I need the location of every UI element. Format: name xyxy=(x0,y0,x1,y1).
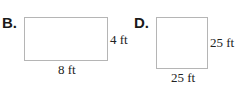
rectangle-b-height-label: 4 ft xyxy=(110,32,128,48)
figure-d-label: D. xyxy=(134,14,149,31)
square-d xyxy=(156,17,208,69)
rectangle-b-width-label: 8 ft xyxy=(58,62,76,78)
square-d-width-label: 25 ft xyxy=(171,70,195,86)
square-d-height-label: 25 ft xyxy=(210,35,234,51)
rectangle-b xyxy=(24,17,108,61)
figure-b-label: B. xyxy=(2,14,17,31)
